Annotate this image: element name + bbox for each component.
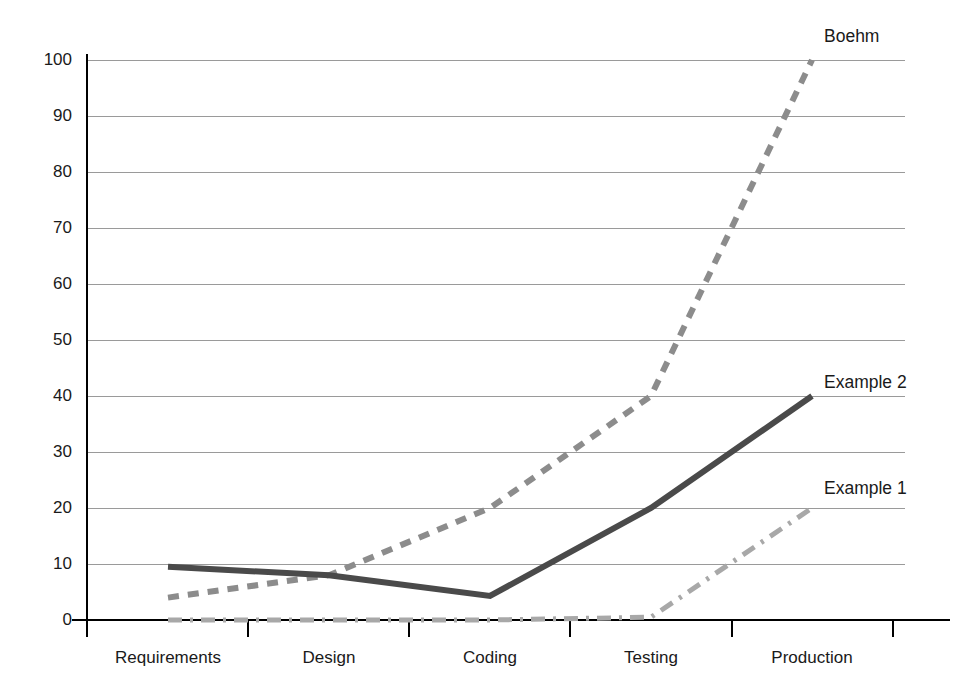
x-tick-label-design: Design (303, 648, 356, 667)
series-label-boehm: Boehm (824, 26, 879, 46)
x-axis-tick-marks (87, 620, 893, 637)
y-tick-label-60: 60 (53, 274, 72, 293)
y-tick-label-40: 40 (53, 386, 72, 405)
series-label-example-2: Example 2 (824, 372, 907, 392)
y-tick-label-10: 10 (53, 554, 72, 573)
x-tick-label-testing: Testing (624, 648, 678, 667)
y-tick-label-30: 30 (53, 442, 72, 461)
y-tick-label-70: 70 (53, 218, 72, 237)
y-tick-label-0: 0 (63, 610, 72, 629)
y-tick-label-20: 20 (53, 498, 72, 517)
y-tick-label-50: 50 (53, 330, 72, 349)
chart-canvas: 0102030405060708090100 RequirementsDesig… (0, 0, 961, 698)
y-tick-label-90: 90 (53, 106, 72, 125)
y-axis-tick-labels: 0102030405060708090100 (44, 50, 72, 629)
series-line-example-2 (168, 396, 812, 596)
series-annotation-labels: BoehmExample 2Example 1 (824, 26, 907, 498)
x-tick-label-coding: Coding (463, 648, 517, 667)
y-tick-label-100: 100 (44, 50, 72, 69)
x-tick-label-requirements: Requirements (115, 648, 221, 667)
x-tick-label-production: Production (771, 648, 852, 667)
series-label-example-1: Example 1 (824, 478, 907, 498)
gridlines-group (87, 60, 905, 564)
x-axis-tick-labels: RequirementsDesignCodingTestingProductio… (115, 648, 853, 667)
cost-of-defect-chart: 0102030405060708090100 RequirementsDesig… (0, 0, 961, 698)
y-tick-label-80: 80 (53, 162, 72, 181)
series-line-boehm (168, 60, 812, 598)
